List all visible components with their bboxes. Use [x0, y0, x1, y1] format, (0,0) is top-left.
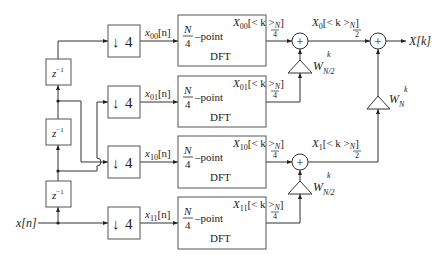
dft-fraction-den: 4 [185, 98, 191, 110]
dft-name: DFT [210, 111, 231, 123]
downsample-arrow-icon: ↓ [112, 155, 120, 171]
downsample-factor: 4 [125, 95, 133, 111]
twiddle-multiplier-2 [288, 181, 312, 194]
dft-fraction-num: N [183, 84, 192, 96]
modulus-den: 2 [355, 30, 359, 39]
stage2-output-label: X1[< k >N] [311, 137, 359, 152]
dft-size-label: –point [194, 91, 223, 103]
subsequence-label: x00[n] [144, 26, 171, 41]
downsample-factor: 4 [125, 155, 133, 171]
dft-fraction-den: 4 [185, 219, 191, 231]
twiddle-exp: k [327, 50, 331, 59]
twiddle-label: WN/2 [313, 180, 335, 197]
twiddle-multiplier-3 [367, 96, 390, 109]
modulus-den: 4 [273, 212, 277, 221]
wire [308, 109, 378, 162]
modulus-den: 2 [355, 151, 359, 160]
twiddle-exp: k [327, 171, 331, 180]
stage2-output-label: X0[< k >N] [311, 16, 359, 31]
downsample-arrow-icon: ↓ [112, 95, 120, 111]
fft-block-diagram: z−1 z−1 z−1 ↓ 4 ↓ 4 ↓ 4 ↓ 4 x00[n] x01[n… [0, 0, 446, 264]
twiddle-exp: k [404, 85, 408, 94]
wire [58, 41, 108, 59]
downsample-factor: 4 [125, 216, 133, 232]
subsequence-label: x11[n] [144, 208, 170, 223]
plus-icon: + [374, 34, 381, 49]
downsample-factor: 4 [125, 34, 133, 50]
subsequence-label: x01[n] [144, 87, 171, 102]
modulus-den: 4 [273, 91, 277, 100]
output-label: X[k] [408, 34, 431, 48]
dft-name: DFT [210, 50, 231, 62]
dft-fraction-num: N [183, 23, 192, 35]
plus-icon: + [296, 155, 303, 170]
plus-icon: + [296, 34, 303, 49]
dft-name: DFT [210, 232, 231, 244]
twiddle-label: WN [389, 92, 405, 109]
dft-size-label: –point [194, 151, 223, 163]
input-label: x[n] [15, 216, 37, 230]
downsample-arrow-icon: ↓ [112, 216, 120, 232]
twiddle-multiplier-1 [288, 60, 312, 73]
downsample-arrow-icon: ↓ [112, 34, 120, 50]
junction-dot [56, 99, 59, 102]
dft-name: DFT [210, 171, 231, 183]
dft-fraction-den: 4 [185, 158, 191, 170]
subsequence-label: x10[n] [144, 147, 171, 162]
dft-size-label: –point [194, 30, 223, 42]
twiddle-label: WN/2 [313, 59, 335, 76]
dft-fraction-num: N [183, 144, 192, 156]
dft-fraction-den: 4 [185, 37, 191, 49]
junction-dot [56, 169, 59, 172]
junction-dot [56, 221, 59, 224]
dft-fraction-num: N [183, 205, 192, 217]
dft-size-label: –point [194, 212, 223, 224]
modulus-den: 4 [273, 30, 277, 39]
modulus-den: 4 [273, 151, 277, 160]
